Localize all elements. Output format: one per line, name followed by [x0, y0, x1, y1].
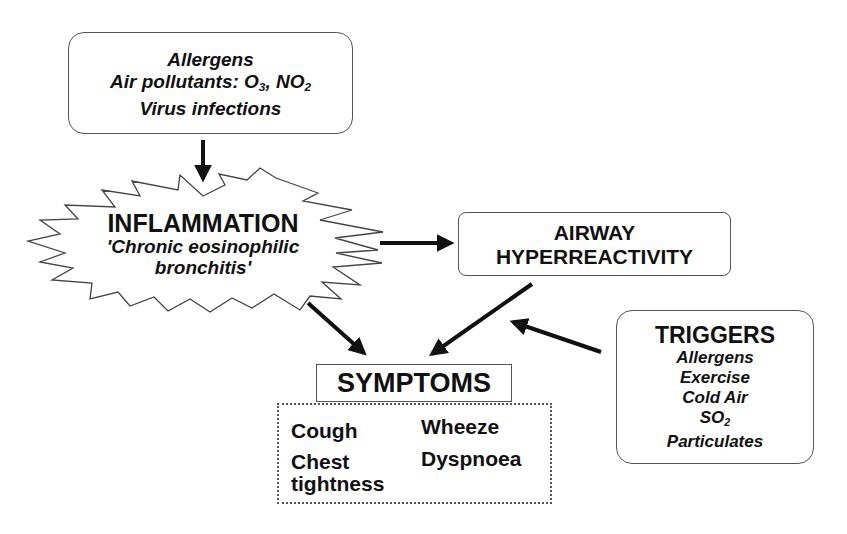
- symptoms-list-box: Cough Wheeze Chest tightness Dyspnoea: [277, 403, 552, 504]
- hyperreactivity-title: HYPERREACTIVITY: [459, 245, 730, 269]
- triggers-box: TRIGGERS Allergens Exercise Cold Air SO2…: [616, 310, 814, 464]
- arrow-airway-to-symptoms: [432, 284, 532, 354]
- causes-box: Allergens Air pollutants: O3, NO2 Virus …: [68, 32, 353, 134]
- symptom-wheeze: Wheeze: [421, 415, 499, 438]
- symptoms-title-box: SYMPTOMS: [316, 364, 512, 402]
- cause-air-pollutants: Air pollutants: O3, NO2: [69, 71, 352, 98]
- cause-allergens: Allergens: [69, 49, 352, 71]
- symptom-dyspnoea: Dyspnoea: [421, 447, 521, 470]
- arrow-inflammation-to-symptoms: [308, 303, 364, 353]
- trigger-so2: SO2: [617, 408, 813, 432]
- causes-list: Allergens Air pollutants: O3, NO2 Virus …: [69, 49, 352, 120]
- airway-title: AIRWAY: [459, 221, 730, 245]
- symptom-cough: Cough: [291, 419, 357, 442]
- inflammation-label: INFLAMMATION 'Chronic eosinophilic bronc…: [38, 210, 368, 278]
- airway-hyperreactivity-box: AIRWAY HYPERREACTIVITY: [458, 212, 731, 276]
- trigger-allergens: Allergens: [617, 348, 813, 368]
- arrow-triggers-to-pathway: [513, 322, 601, 352]
- inflammation-title: INFLAMMATION: [38, 210, 368, 236]
- symptom-chest: Chest: [291, 450, 349, 473]
- symptoms-title: SYMPTOMS: [317, 365, 511, 401]
- trigger-cold-air: Cold Air: [617, 388, 813, 408]
- trigger-exercise: Exercise: [617, 368, 813, 388]
- triggers-title: TRIGGERS: [617, 322, 813, 348]
- trigger-particulates: Particulates: [617, 432, 813, 452]
- inflammation-subtitle-1: 'Chronic eosinophilic: [38, 236, 368, 257]
- cause-virus-infections: Virus infections: [69, 98, 352, 120]
- symptom-tightness: tightness: [291, 472, 384, 495]
- inflammation-subtitle-2: bronchitis': [38, 257, 368, 278]
